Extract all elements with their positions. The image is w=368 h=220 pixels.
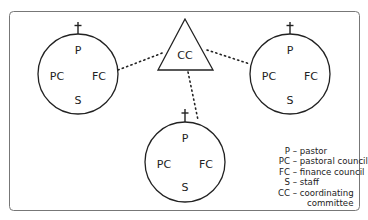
label-staff: S bbox=[287, 94, 294, 107]
legend-sep: – bbox=[293, 156, 297, 166]
cross-icon bbox=[182, 109, 189, 122]
coordinating-committee-hub: CC bbox=[158, 19, 213, 70]
parish-bottom: P PC FC S bbox=[145, 109, 225, 202]
cross-icon bbox=[287, 22, 294, 34]
legend: P – pastor PC – pastoral council FC – fi… bbox=[264, 146, 368, 208]
legend-item: P – pastor bbox=[264, 146, 368, 156]
legend-item: S – staff bbox=[264, 177, 368, 187]
label-pastor: P bbox=[287, 44, 294, 57]
label-finance-council: FC bbox=[199, 158, 213, 171]
label-staff: S bbox=[182, 181, 189, 194]
label-pastoral-council: PC bbox=[262, 70, 277, 83]
legend-text: finance council bbox=[300, 167, 365, 177]
connection-right bbox=[207, 50, 250, 64]
label-pastoral-council: PC bbox=[50, 70, 65, 83]
cross-icon bbox=[75, 22, 82, 34]
parish-right: P PC FC S bbox=[250, 22, 330, 114]
connection-left bbox=[118, 52, 165, 70]
legend-text: pastor bbox=[300, 146, 327, 156]
triangle-shape bbox=[158, 19, 213, 70]
label-pastor: P bbox=[182, 132, 189, 145]
legend-sep: – bbox=[293, 177, 297, 187]
legend-continuation: committee bbox=[264, 198, 368, 208]
legend-text: staff bbox=[300, 177, 319, 187]
legend-abbr: S bbox=[264, 177, 290, 187]
legend-text: coordinating bbox=[300, 188, 354, 198]
legend-sep: – bbox=[293, 167, 297, 177]
legend-item: PC – pastoral council bbox=[264, 156, 368, 166]
label-coordinating-committee: CC bbox=[177, 49, 193, 62]
legend-text: pastoral council bbox=[300, 156, 368, 166]
legend-abbr: FC bbox=[264, 167, 290, 177]
label-pastoral-council: PC bbox=[157, 158, 172, 171]
connection-bottom bbox=[188, 72, 198, 120]
legend-item: CC – coordinating bbox=[264, 188, 368, 198]
label-finance-council: FC bbox=[92, 70, 106, 83]
legend-item: FC – finance council bbox=[264, 167, 368, 177]
legend-abbr: PC bbox=[264, 156, 290, 166]
legend-abbr: P bbox=[264, 146, 290, 156]
parish-left: P PC FC S bbox=[38, 22, 118, 114]
legend-abbr: CC bbox=[264, 188, 290, 198]
legend-sep: – bbox=[293, 188, 297, 198]
label-pastor: P bbox=[75, 44, 82, 57]
label-staff: S bbox=[75, 94, 82, 107]
label-finance-council: FC bbox=[304, 70, 318, 83]
legend-sep: – bbox=[293, 146, 297, 156]
